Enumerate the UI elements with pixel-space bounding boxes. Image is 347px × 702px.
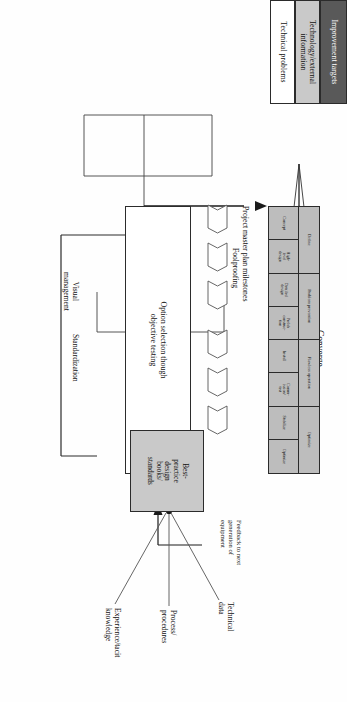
stage-cell-problem-prevention: Problem prevention	[299, 274, 320, 341]
knowledge-source-lines	[115, 508, 219, 606]
label-feedback-to-next-generation: Feedback to next generation of equipment	[219, 520, 243, 565]
label-experience-tacit-knowledge: Experience/tacit knowledge	[103, 608, 121, 657]
step-cell-stabilize: Stabilize	[269, 407, 299, 440]
label-standardization: Standardization	[70, 334, 79, 382]
label-foolproofing: Foolproofing	[230, 248, 239, 288]
step-cell-install: Install	[269, 340, 299, 373]
step-cell-prelab-construction: Prelab construc- tion	[269, 307, 299, 340]
phase-table-stage-row: Define Problem prevention Flawless opera…	[299, 207, 320, 473]
label-process-procedures: Process/ procedures	[159, 610, 177, 643]
input-bus-lines	[84, 115, 267, 211]
label-project-master-plan-milestones: Project master plan milestones	[241, 206, 250, 302]
stage-cell-flawless-operation: Flawless operation	[299, 340, 320, 407]
step-cell-detailed-design: Detailed design	[269, 274, 299, 307]
stage-cell-define: Define	[299, 207, 320, 274]
stage-cell-optimize: Optimize	[299, 407, 320, 474]
step-cell-optimize: Optimize	[269, 440, 299, 473]
step-cell-commission-test: Comm- ission/ test	[269, 373, 299, 406]
phase-table: Define Problem prevention Flawless opera…	[268, 206, 320, 474]
best-practice-label: Best- practice design books/ standards	[145, 457, 189, 485]
option-selection-label: Option selection though objective testin…	[148, 302, 167, 379]
step-cell-high-level-design: High- level design	[269, 240, 299, 273]
diagram-canvas: Diverge Converge Improvement targets Tec…	[0, 0, 347, 702]
best-practice-box[interactable]: Best- practice design books/ standards	[130, 430, 204, 512]
label-technical-data: Technical data	[216, 602, 234, 631]
step-cell-concept: Concept	[269, 207, 299, 240]
label-visual-management: Visual management	[61, 272, 79, 311]
phase-table-step-row: Concept High- level design Detailed desi…	[269, 207, 299, 473]
